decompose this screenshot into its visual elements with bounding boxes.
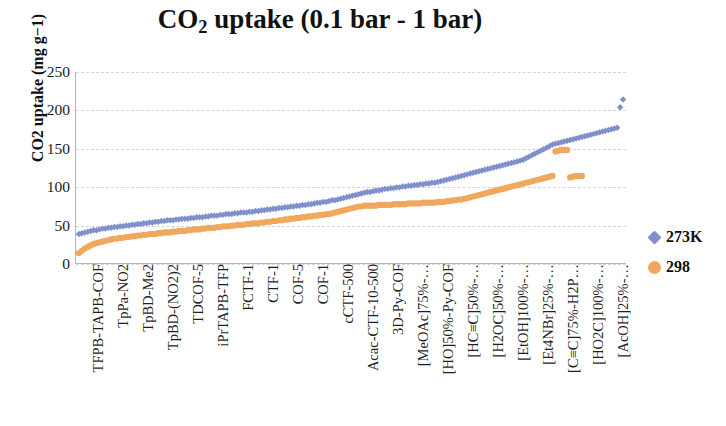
- x-tick-label: TDCOF-5: [190, 264, 206, 424]
- x-axis-tick-labels: TFPB-TAPB-COFTpPa-NO2TpBD-Me2TpBD-(NO2)2…: [75, 264, 626, 426]
- x-tick-label: iPrTAPB-TFP: [215, 264, 231, 424]
- x-tick-label: COF-1: [315, 264, 331, 424]
- x-tick-label: TFPB-TAPB-COF: [90, 264, 106, 424]
- x-tick-label: FCTF-1: [240, 264, 256, 424]
- x-tick-label: TpBD-Me2: [140, 264, 156, 424]
- legend-diamond-icon: [647, 230, 661, 244]
- chart-title-subscript: 2: [198, 17, 207, 37]
- co2-uptake-chart: CO2 uptake (0.1 bar - 1 bar) CO2 uptake …: [0, 0, 726, 426]
- data-point: [549, 173, 555, 179]
- series-markers: [76, 72, 626, 263]
- x-tick-label: [EtOH]100%-…: [515, 264, 531, 424]
- x-tick-label: [C≡C]75%-H2P…: [565, 264, 581, 424]
- x-tick-label: cCTF-500: [340, 264, 356, 424]
- x-tick-label: [AcOH]25%-…: [615, 264, 631, 424]
- x-tick-label: CTF-1: [265, 264, 281, 424]
- x-tick-label: TpBD-(NO2)2: [165, 264, 181, 424]
- x-tick-label: [MeOAc]75%-…: [415, 264, 431, 424]
- y-tick-label: 0: [30, 256, 70, 272]
- legend-label: 273K: [666, 228, 702, 246]
- x-tick-label: [HO2C]100%-…: [590, 264, 606, 424]
- chart-title-main: CO: [158, 4, 199, 34]
- x-tick-label: COF-5: [290, 264, 306, 424]
- series-273K: [76, 96, 626, 237]
- y-tick-label: 50: [30, 218, 70, 234]
- data-point: [617, 104, 623, 110]
- y-tick-label: 150: [30, 141, 70, 157]
- x-tick-label: Acac-CTF-10-500: [365, 264, 381, 424]
- legend-item-298[interactable]: 298: [648, 252, 726, 282]
- y-tick-label: 250: [30, 64, 70, 80]
- chart-title-rest: uptake (0.1 bar - 1 bar): [207, 4, 482, 34]
- legend-label: 298: [666, 258, 690, 276]
- data-point: [620, 96, 626, 102]
- legend-item-273K[interactable]: 273K: [648, 222, 726, 252]
- chart-legend: 273K298: [648, 222, 726, 282]
- data-point: [579, 173, 585, 179]
- x-tick-label: [Et4NBr]25%-…: [540, 264, 556, 424]
- legend-circle-icon: [648, 261, 661, 274]
- y-tick-label: 100: [30, 179, 70, 195]
- x-tick-label: [H2OC]50%-…: [490, 264, 506, 424]
- chart-title: CO2 uptake (0.1 bar - 1 bar): [0, 4, 640, 35]
- x-tick-label: 3D-Py-COF: [390, 264, 406, 424]
- y-tick-label: 200: [30, 102, 70, 118]
- x-tick-label: [HC≡C]50%-…: [465, 264, 481, 424]
- x-tick-label: [HO]50%-Py-COF: [440, 264, 456, 424]
- y-axis-tick-labels: 250200150100500: [26, 0, 70, 426]
- data-point: [564, 147, 570, 153]
- plot-area: [75, 72, 626, 264]
- x-tick-label: TpPa-NO2: [115, 264, 131, 424]
